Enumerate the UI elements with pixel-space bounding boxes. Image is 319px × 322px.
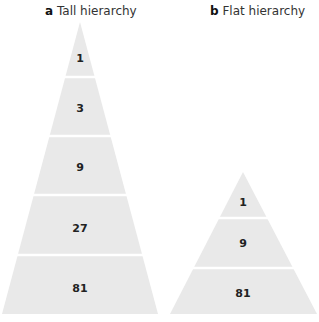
tall-level-2: 3 bbox=[76, 102, 84, 115]
flat-level-3: 81 bbox=[235, 287, 250, 300]
tall-level-5: 81 bbox=[72, 282, 87, 295]
tall-level-3: 9 bbox=[76, 161, 84, 174]
tall-level-1: 1 bbox=[76, 52, 84, 65]
flat-level-1: 1 bbox=[239, 196, 247, 209]
flat-level-2: 9 bbox=[239, 237, 247, 250]
flat-pyramid: 1 9 81 bbox=[165, 172, 319, 314]
hierarchy-diagram: 1 3 9 27 81 1 9 81 bbox=[0, 0, 319, 322]
tall-level-4: 27 bbox=[72, 222, 87, 235]
tall-pyramid: 1 3 9 27 81 bbox=[0, 22, 160, 314]
